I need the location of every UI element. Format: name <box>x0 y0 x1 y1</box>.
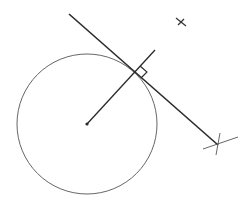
tangent-line <box>69 14 218 145</box>
upper-cross-mark <box>176 18 186 26</box>
tangent-diagram <box>0 0 250 201</box>
radius-line <box>87 50 155 124</box>
center-point <box>85 122 88 125</box>
right-angle-marker <box>140 66 147 78</box>
